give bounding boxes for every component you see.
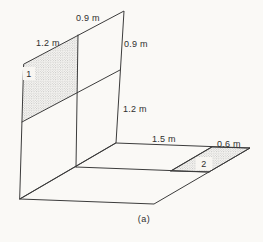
floor-back-right-dimension-label: 0.6 m — [217, 139, 241, 149]
figure-caption: (a) — [138, 214, 151, 224]
wall-top-dimension-label: 0.9 m — [76, 13, 100, 23]
region-1-label: 1 — [26, 69, 31, 79]
wall-top-left-dimension-label: 1.2 m — [36, 38, 60, 48]
wall-right-upper-dimension-label: 0.9 m — [124, 39, 148, 49]
region-2-label: 2 — [201, 159, 206, 169]
floor-back-dimension-label: 1.5 m — [152, 134, 176, 144]
figure-page: 0.9 m 1.2 m 0.9 m 1.2 m 1.5 m 0.6 m 1 2 … — [0, 0, 263, 242]
geometry-diagram: 0.9 m 1.2 m 0.9 m 1.2 m 1.5 m 0.6 m 1 2 … — [0, 0, 263, 242]
wall-right-lower-dimension-label: 1.2 m — [123, 104, 147, 114]
